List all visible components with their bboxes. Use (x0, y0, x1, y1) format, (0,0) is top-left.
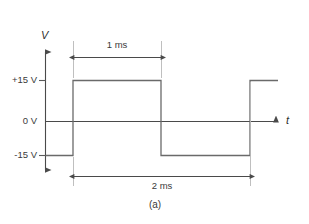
time-axis-label: t (286, 115, 289, 126)
square-wave-path (46, 81, 279, 156)
voltage-axis-label: V (41, 30, 48, 41)
dimension-label-2ms: 2 ms (132, 181, 192, 191)
y-tick-marks (39, 81, 46, 156)
waveform-trace (46, 81, 279, 156)
dimension-label-1ms: 1 ms (87, 40, 147, 50)
y-tick-label-plus15v: +15 V (0, 75, 37, 85)
waveform-figure: V t +15 V 0 V -15 V 1 ms 2 ms (a) (0, 0, 309, 224)
dimension-extension-lines-2ms (74, 82, 251, 186)
y-tick-label-minus15v: -15 V (0, 150, 37, 160)
figure-caption: (a) (125, 200, 185, 210)
y-tick-label-0v: 0 V (0, 116, 37, 126)
